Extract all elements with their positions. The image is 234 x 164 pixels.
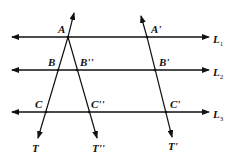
transversal-T [68,13,74,37]
label-C2: C'' [91,98,104,110]
label-L1: L1 [212,33,224,48]
label-B1: B' [158,56,169,68]
label-B: B [47,56,55,68]
label-C1: C' [170,98,180,110]
label-T1: T' [168,140,178,152]
label-L2: L2 [212,66,224,81]
label-C: C [35,98,43,110]
label-B2: B'' [79,56,93,68]
label-L3: L3 [212,108,224,123]
transversal-T1 [141,16,147,37]
label-T2: T'' [92,142,105,154]
label-A: A [57,23,65,35]
label-A1: A' [150,23,161,35]
parallel-lines-transversals-diagram: A B B'' C C'' A' B' C' T T'' T' L1 L2 L3 [0,0,234,164]
transversal-T2 [68,37,97,138]
label-T: T [32,142,40,154]
